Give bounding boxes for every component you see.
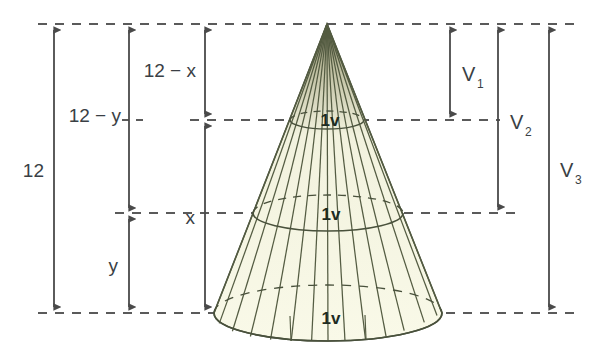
- label-volume-two-sub: 2: [525, 125, 532, 139]
- cone-volume-diagram: 1v 1v 1v 12 12 − y y 12 − x x: [0, 0, 594, 355]
- label-volume-two-text: V: [510, 111, 524, 133]
- label-volume-three-text: V: [560, 159, 574, 181]
- label-volume-two: V 2: [510, 111, 532, 139]
- label-volume-three: V 3: [560, 159, 582, 187]
- label-twelve-minus-x: 12 − x: [144, 60, 197, 81]
- slice-label-middle: 1v: [322, 205, 341, 224]
- label-x: x: [186, 207, 196, 228]
- label-volume-one-sub: 1: [477, 77, 484, 91]
- diagram-canvas: 1v 1v 1v 12 12 − y y 12 − x x: [0, 0, 594, 355]
- label-volume-one-text: V: [462, 63, 476, 85]
- label-total-height: 12: [23, 160, 44, 181]
- label-twelve-minus-y: 12 − y: [69, 105, 122, 126]
- cone-shape: [214, 24, 442, 341]
- slice-label-top: 1v: [321, 111, 340, 130]
- label-volume-three-sub: 3: [575, 173, 582, 187]
- slice-label-bottom: 1v: [322, 309, 341, 328]
- label-y: y: [109, 255, 119, 276]
- label-volume-one: V 1: [462, 63, 484, 91]
